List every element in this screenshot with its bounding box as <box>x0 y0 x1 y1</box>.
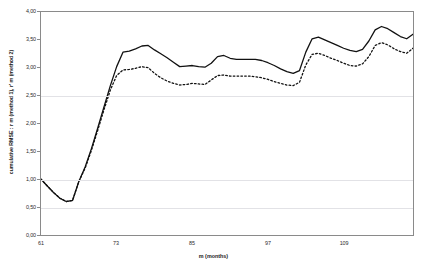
x-tick-label: 97 <box>256 240 280 246</box>
x-axis-title: m (months) <box>0 253 427 260</box>
series-plot <box>41 12 413 235</box>
x-tick-label: 109 <box>332 240 356 246</box>
series-line-method-2 <box>41 43 413 202</box>
gridline-2-50 <box>41 96 413 97</box>
gridline-0-50 <box>41 208 413 209</box>
y-tick-label: 0,00 <box>10 232 36 238</box>
series-line-method-1 <box>41 26 413 201</box>
gridline-1-00 <box>41 180 413 181</box>
chart-root: 4,00 3,50 3,00 2,50 2,00 1,50 1,00 0,50 … <box>0 0 427 266</box>
y-tick-label: 0,50 <box>10 204 36 210</box>
y-axis-title: cumulative RMSE : r m (method 1), r' m (… <box>8 32 14 192</box>
x-tick-label: 73 <box>104 240 128 246</box>
plot-area <box>40 11 414 236</box>
y-tick-label: 4,00 <box>10 8 36 14</box>
x-tick-label: 61 <box>29 240 53 246</box>
x-tick-label: 85 <box>180 240 204 246</box>
